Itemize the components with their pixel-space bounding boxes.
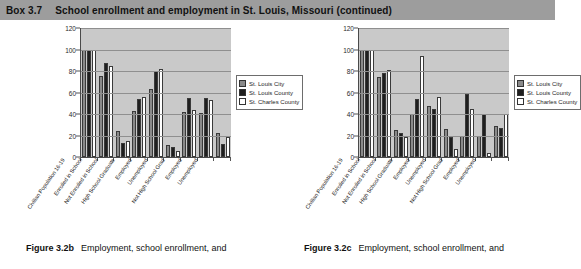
legend-item: St. Charles County <box>517 97 577 106</box>
y-axis-3-2b: 020406080100120 <box>40 28 80 157</box>
caption-figure-number-b: Figure 3.2b <box>26 243 74 253</box>
bar <box>394 130 398 157</box>
y-axis-3-2c: 020406080100120 <box>318 28 358 157</box>
bar <box>182 112 186 157</box>
bar <box>126 141 130 157</box>
plot-area-3-2b <box>80 28 231 158</box>
bar <box>171 147 175 157</box>
figure-panel-3-2c: 020406080100120 St. Louis CitySt. Louis … <box>278 24 555 234</box>
chart-3-2c: 020406080100120 St. Louis CitySt. Louis … <box>318 28 546 173</box>
gridline <box>359 114 509 115</box>
bar <box>477 136 481 158</box>
bar <box>449 137 453 157</box>
x-axis-label: High School Graduate <box>358 157 394 205</box>
gridline <box>359 136 509 137</box>
y-tick-label: 20 <box>347 132 354 139</box>
box-number: Box 3.7 <box>6 5 42 16</box>
bar <box>399 133 403 157</box>
bar <box>377 77 381 157</box>
caption-3-2b: Figure 3.2bEmployment, school enrollment… <box>26 243 227 253</box>
bar <box>370 50 374 158</box>
y-tick-label: 120 <box>343 25 354 32</box>
x-axis-label: Not High School Grad <box>408 157 444 204</box>
bar <box>465 94 469 157</box>
caption-text-c: Employment, school enrollment, and <box>359 243 505 253</box>
legend-swatch-icon <box>517 89 524 96</box>
x-axis-label: High School Graduate <box>80 157 116 205</box>
box-title: School enrollment and employment in St. … <box>55 5 392 16</box>
bar <box>92 50 96 158</box>
y-tick-label: 40 <box>347 111 354 118</box>
chart-3-2b: 020406080100120 St. Louis CitySt. Louis … <box>40 28 268 173</box>
bar <box>137 99 141 157</box>
bar <box>204 98 208 157</box>
gridline <box>359 93 509 94</box>
bar <box>166 145 170 157</box>
bar <box>109 66 113 157</box>
legend-item: St. Louis City <box>517 79 577 88</box>
y-tick-label: 60 <box>347 89 354 96</box>
bar <box>104 63 108 157</box>
y-tick-label: 120 <box>65 25 76 32</box>
caption-3-2c: Figure 3.2cEmployment, school enrollment… <box>304 243 504 253</box>
legend-swatch-icon <box>239 80 246 87</box>
bar <box>365 50 369 158</box>
bar <box>444 129 448 157</box>
bar <box>221 144 225 157</box>
bar <box>415 99 419 157</box>
legend-label: St. Louis County <box>527 90 571 96</box>
x-axis-labels-3-2c: Civilian Population 16-19Enrolled in Sch… <box>278 157 556 227</box>
legend-label: St. Louis City <box>527 81 562 87</box>
caption-figure-number-c: Figure 3.2c <box>304 243 352 253</box>
bar <box>159 69 163 157</box>
bar <box>149 89 153 157</box>
bar <box>460 136 464 158</box>
bar <box>121 143 125 157</box>
y-tick-label: 20 <box>69 132 76 139</box>
gridline <box>81 28 231 29</box>
bar <box>87 50 91 158</box>
y-tick-label: 80 <box>347 68 354 75</box>
bar <box>494 126 498 157</box>
x-axis-labels-3-2b: Civilian Population 16-19Enrolled in Sch… <box>0 157 278 227</box>
bar <box>99 76 103 157</box>
bar <box>216 133 220 157</box>
bar <box>382 73 386 157</box>
gridline <box>81 136 231 137</box>
y-tick-label: 60 <box>69 89 76 96</box>
bar <box>360 50 364 158</box>
legend-swatch-icon <box>517 80 524 87</box>
gridline <box>81 71 231 72</box>
box-header: Box 3.7 School enrollment and employment… <box>0 0 555 20</box>
gridline <box>81 50 231 51</box>
header-divider <box>0 20 555 22</box>
legend-swatch-icon <box>239 98 246 105</box>
legend-swatch-icon <box>517 98 524 105</box>
bar <box>82 50 86 158</box>
caption-text-b: Employment, school enrollment, and <box>81 243 227 253</box>
bar <box>432 109 436 157</box>
gridline <box>359 50 509 51</box>
gridline <box>359 28 509 29</box>
bar <box>404 137 408 157</box>
plot-area-3-2c <box>358 28 509 158</box>
x-axis-label: Not High School Grad <box>130 157 166 204</box>
bar <box>226 137 230 157</box>
bar <box>209 100 213 157</box>
gridline <box>81 93 231 94</box>
gridline <box>81 114 231 115</box>
legend-3-2c: St. Louis CitySt. Louis CountySt. Charle… <box>514 75 581 110</box>
y-tick-label: 80 <box>69 68 76 75</box>
bar <box>132 111 136 157</box>
y-tick-label: 100 <box>65 46 76 53</box>
bar <box>192 110 196 157</box>
bar <box>187 98 191 157</box>
figure-panel-3-2b: 020406080100120 St. Louis CitySt. Louis … <box>0 24 277 234</box>
bar <box>499 128 503 157</box>
legend-swatch-icon <box>239 89 246 96</box>
y-tick-label: 40 <box>69 111 76 118</box>
bar <box>142 97 146 157</box>
legend-label: St. Charles County <box>527 99 577 105</box>
bar <box>470 109 474 157</box>
y-tick-label: 100 <box>343 46 354 53</box>
